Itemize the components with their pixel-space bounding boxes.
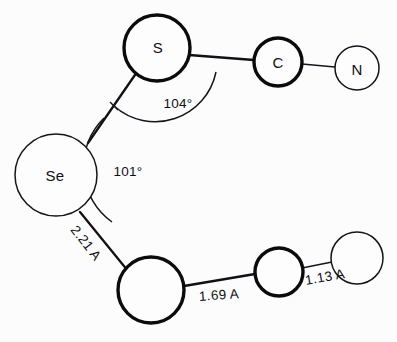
bond-label-a2-a3: 1.13 A <box>304 266 346 288</box>
molecular-structure-figure: S C N Se 104° 101° 2.21 A 1.69 A 1.13 A <box>0 0 397 342</box>
bond-label-layer: 2.21 A 1.69 A 1.13 A <box>68 223 346 304</box>
atom-circle-a2 <box>255 248 303 296</box>
bond-a2-a3 <box>302 262 332 268</box>
bond-a1-a2 <box>184 274 255 286</box>
bond-label-a1-a2: 1.69 A <box>198 286 239 304</box>
atom-circle-a1 <box>118 257 184 323</box>
angle-label-104: 104° <box>163 96 192 111</box>
bond-label-se-a1: 2.21 A <box>68 223 105 264</box>
atom-label-c: C <box>272 54 283 71</box>
angle-label-101: 101° <box>113 164 142 179</box>
bond-c-n <box>302 64 335 67</box>
bond-se-s <box>88 72 137 143</box>
angle-layer <box>84 72 216 222</box>
atom-label-n: N <box>351 61 362 78</box>
atom-label-se: Se <box>45 167 64 184</box>
angle-label-layer: 104° 101° <box>113 96 192 179</box>
structure-canvas: S C N Se 104° 101° 2.21 A 1.69 A 1.13 A <box>0 0 397 342</box>
bond-s-c <box>189 55 254 60</box>
atom-label-s: S <box>153 39 163 56</box>
